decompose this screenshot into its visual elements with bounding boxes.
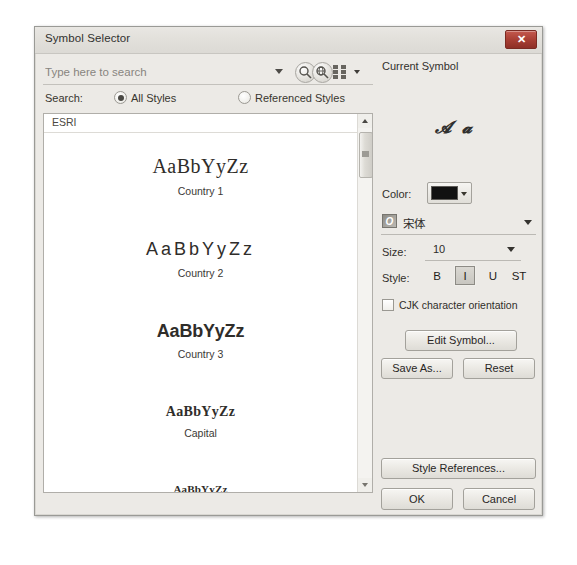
list-item[interactable]: AaBbYyZz Country 1	[44, 133, 357, 197]
list-item[interactable]: AaBbYyZz Country 2	[44, 197, 357, 279]
ok-button[interactable]: OK	[381, 488, 453, 510]
radio-all-styles-label: All Styles	[131, 92, 176, 104]
size-combobox[interactable]: 10	[425, 240, 521, 261]
save-as-button[interactable]: Save As...	[381, 358, 453, 379]
search-label: Search:	[45, 92, 83, 104]
cjk-orientation-label[interactable]: CJK character orientation	[399, 299, 517, 311]
symbol-preview-text: AaBbYyZz	[44, 155, 357, 178]
triangle-up-icon[interactable]	[358, 114, 372, 128]
right-panel: Current Symbol 𝓐𝓪 Color: O 宋体 Size:	[381, 60, 536, 386]
current-symbol-preview: 𝓐𝓪	[381, 72, 536, 182]
dialog-body: Search: All Styles Referenced Styles ESR…	[35, 54, 542, 516]
style-references-button[interactable]: Style References...	[381, 458, 536, 479]
list-item[interactable]: AaBbYyZz	[44, 439, 357, 492]
left-panel: Search: All Styles Referenced Styles ESR…	[43, 60, 373, 493]
color-swatch-button[interactable]	[427, 182, 472, 204]
list-item[interactable]: AaBbYyZz Capital	[44, 360, 357, 439]
cancel-button[interactable]: Cancel	[463, 488, 535, 510]
size-label: Size:	[382, 246, 406, 258]
size-row: Size: 10	[381, 240, 536, 266]
font-type-icon: O	[382, 214, 397, 228]
list-scrollbar[interactable]	[357, 114, 372, 492]
symbol-name-label: Country 1	[44, 185, 357, 197]
symbol-preview-text: AaBbYyZz	[44, 239, 357, 260]
triangle-down-icon[interactable]	[358, 478, 372, 492]
underline-button[interactable]: U	[483, 266, 503, 285]
symbol-name-label: Capital	[44, 427, 357, 439]
font-family-combobox[interactable]: O 宋体	[381, 210, 536, 235]
color-row: Color:	[381, 182, 536, 210]
symbol-list[interactable]: ESRI AaBbYyZz Country 1 AaBbYyZz Country…	[43, 113, 373, 493]
symbol-preview-text: AaBbYyZz	[44, 404, 357, 420]
magnifier-globe-icon[interactable]	[312, 62, 333, 83]
search-bar	[43, 60, 373, 85]
symbol-preview-text: AaBbYyZz	[44, 321, 357, 342]
symbol-preview-text: AaBbYyZz	[44, 483, 357, 492]
scrollbar-thumb[interactable]	[359, 132, 373, 178]
dialog-footer-buttons: Style References... OK Cancel	[381, 458, 536, 514]
size-chevron-down-icon[interactable]	[507, 247, 515, 252]
style-row: Style: B I U ST	[381, 266, 536, 294]
close-icon[interactable]: ✕	[505, 30, 537, 49]
style-label: Style:	[382, 272, 410, 284]
color-chevron-down-icon[interactable]	[461, 192, 467, 196]
symbol-name-label: Country 3	[44, 348, 357, 360]
size-value: 10	[433, 243, 445, 255]
symbol-selector-dialog: Symbol Selector ✕	[34, 26, 543, 516]
bold-button[interactable]: B	[427, 266, 447, 285]
radio-referenced-styles[interactable]: Referenced Styles	[238, 91, 345, 104]
font-chevron-down-icon[interactable]	[524, 220, 532, 225]
current-symbol-label: Current Symbol	[382, 60, 536, 72]
color-label: Color:	[382, 188, 411, 200]
edit-symbol-button[interactable]: Edit Symbol...	[405, 330, 517, 351]
cjk-orientation-row[interactable]: CJK character orientation	[381, 296, 536, 320]
radio-all-styles-mark	[114, 91, 127, 104]
search-history-chevron-down-icon[interactable]	[275, 69, 283, 74]
radio-referenced-styles-mark	[238, 91, 251, 104]
symbol-preview-glyphs: 𝓐𝓪	[435, 118, 483, 138]
radio-all-styles[interactable]: All Styles	[114, 91, 176, 104]
symbol-list-category-header: ESRI	[44, 114, 372, 133]
strikethrough-button[interactable]: ST	[509, 266, 529, 285]
symbol-name-label: Country 2	[44, 267, 357, 279]
category-label: ESRI	[52, 116, 77, 128]
cjk-orientation-checkbox[interactable]	[382, 299, 394, 311]
view-mode-chevron-down-icon[interactable]	[354, 70, 360, 74]
reset-button[interactable]: Reset	[463, 358, 535, 379]
grid-view-icon[interactable]	[332, 64, 348, 80]
search-input[interactable]	[45, 63, 273, 81]
search-scope-row: Search: All Styles Referenced Styles	[43, 89, 373, 109]
symbol-list-items: AaBbYyZz Country 1 AaBbYyZz Country 2 Aa…	[44, 133, 357, 492]
symbol-action-buttons: Edit Symbol... Save As... Reset	[381, 330, 536, 386]
window-title: Symbol Selector	[45, 32, 130, 44]
font-family-value: 宋体	[403, 215, 425, 231]
list-item[interactable]: AaBbYyZz Country 3	[44, 279, 357, 361]
title-bar: Symbol Selector ✕	[35, 27, 542, 54]
color-swatch-fill	[431, 186, 458, 200]
radio-referenced-styles-label: Referenced Styles	[255, 92, 345, 104]
italic-button[interactable]: I	[455, 266, 475, 285]
